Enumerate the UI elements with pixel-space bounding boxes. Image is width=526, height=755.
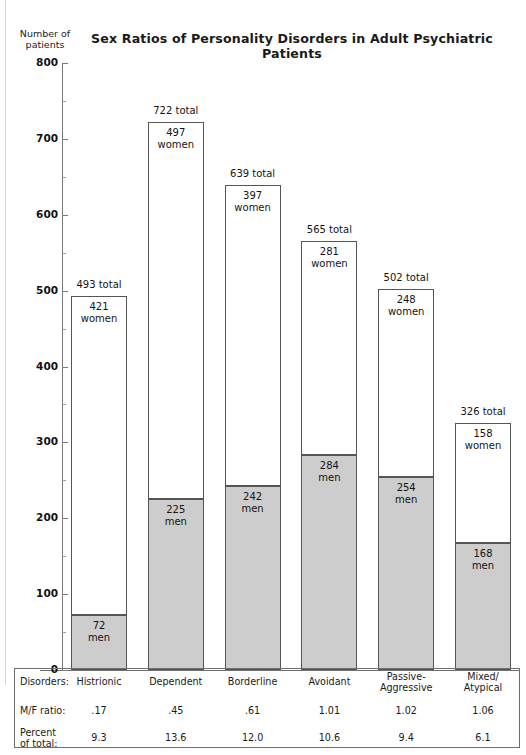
disorder-name-line1: Mixed/: [428, 671, 526, 682]
bar-segment-women[interactable]: 248women: [378, 289, 434, 477]
y-axis-label: 300: [14, 435, 58, 447]
bar-segment-women[interactable]: 281women: [301, 241, 357, 454]
bar-segment-men-value: 168: [473, 548, 492, 560]
bar-segment-women-label: women: [234, 202, 271, 214]
mf-ratio-cell: 1.06: [428, 705, 526, 716]
bar-total-label: 639 total: [198, 168, 308, 179]
stacked-bar[interactable]: 397women242men: [225, 185, 281, 670]
bar-segment-men[interactable]: 72men: [71, 615, 127, 670]
bar-segment-men-label: men: [318, 472, 340, 484]
bar-segment-women-value: 397: [243, 190, 262, 202]
bar-segment-women[interactable]: 158women: [455, 423, 511, 543]
bar-segment-men-label: men: [395, 494, 417, 506]
plot-area: 8007006005004003002001000 421women72men4…: [0, 0, 526, 680]
bar-segment-men-label: men: [88, 632, 110, 644]
y-axis-tick-minor: [62, 404, 66, 405]
y-axis-tick-major: [62, 442, 68, 443]
y-axis-tick-major: [62, 594, 68, 595]
bar-segment-women[interactable]: 497women: [148, 122, 204, 499]
bar-total-label: 326 total: [428, 406, 526, 417]
bar-segment-men-value: 72: [93, 620, 106, 632]
bar-segment-women-value: 248: [397, 294, 416, 306]
y-axis-tick-minor: [62, 101, 66, 102]
bar-total-label: 493 total: [44, 279, 154, 290]
bar-total-label: 565 total: [274, 224, 384, 235]
bar-segment-men-value: 254: [397, 482, 416, 494]
disorder-name-cell: Mixed/Atypical: [428, 671, 526, 693]
y-axis-tick-major: [62, 291, 68, 292]
bar-segment-women[interactable]: 421women: [71, 296, 127, 615]
bar-segment-men-label: men: [241, 503, 263, 515]
bar-segment-men[interactable]: 242men: [225, 486, 281, 670]
bar-segment-women-label: women: [311, 258, 348, 270]
bar-segment-women-label: women: [81, 313, 118, 325]
bar-segment-men[interactable]: 168men: [455, 543, 511, 670]
disorder-name-line2: Atypical: [428, 682, 526, 693]
y-axis-tick-major: [62, 215, 68, 216]
bar-segment-women-label: women: [388, 306, 425, 318]
bar-segment-women-value: 158: [473, 428, 492, 440]
y-axis-tick-minor: [62, 556, 66, 557]
stacked-bar[interactable]: 497women225men: [148, 122, 204, 670]
bar-segment-women-label: women: [158, 139, 195, 151]
bar-segment-men[interactable]: 254men: [378, 477, 434, 670]
bar-segment-women[interactable]: 397women: [225, 185, 281, 486]
y-axis-tick-minor: [62, 480, 66, 481]
stacked-bar[interactable]: 421women72men: [71, 296, 127, 670]
y-axis-tick-major: [62, 518, 68, 519]
stacked-bar[interactable]: 158women168men: [455, 423, 511, 670]
y-axis-label: 100: [14, 587, 58, 599]
bar-segment-men-value: 225: [166, 504, 185, 516]
bar-segment-men-value: 284: [320, 460, 339, 472]
y-axis-tick-minor: [62, 253, 66, 254]
bar-segment-women-label: women: [465, 440, 502, 452]
y-axis-tick-major: [62, 63, 68, 64]
y-axis-label: 200: [14, 511, 58, 523]
stacked-bar[interactable]: 281women284men: [301, 241, 357, 670]
percent-of-total-cell: 6.1: [428, 732, 526, 743]
bar-segment-women-value: 497: [166, 127, 185, 139]
bar-segment-women-value: 281: [320, 246, 339, 258]
y-axis-label: 800: [14, 56, 58, 68]
bar-segment-women-value: 421: [89, 301, 108, 313]
bar-segment-men-value: 242: [243, 491, 262, 503]
y-axis-tick-minor: [62, 329, 66, 330]
bar-total-label: 502 total: [351, 272, 461, 283]
y-axis-tick-major: [62, 367, 68, 368]
y-axis-label: 600: [14, 208, 58, 220]
y-axis-tick-minor: [62, 632, 66, 633]
bar-segment-men-label: men: [472, 560, 494, 572]
bar-segment-men-label: men: [165, 516, 187, 528]
chart-page: Number of patients Sex Ratios of Persona…: [0, 0, 526, 755]
stacked-bar[interactable]: 248women254men: [378, 289, 434, 670]
y-axis-tick-minor: [62, 177, 66, 178]
bar-total-label: 722 total: [121, 105, 231, 116]
y-axis-label: 700: [14, 132, 58, 144]
bar-segment-men[interactable]: 225men: [148, 499, 204, 670]
y-axis-label: 400: [14, 360, 58, 372]
y-axis-tick-major: [62, 139, 68, 140]
bar-segment-men[interactable]: 284men: [301, 455, 357, 670]
